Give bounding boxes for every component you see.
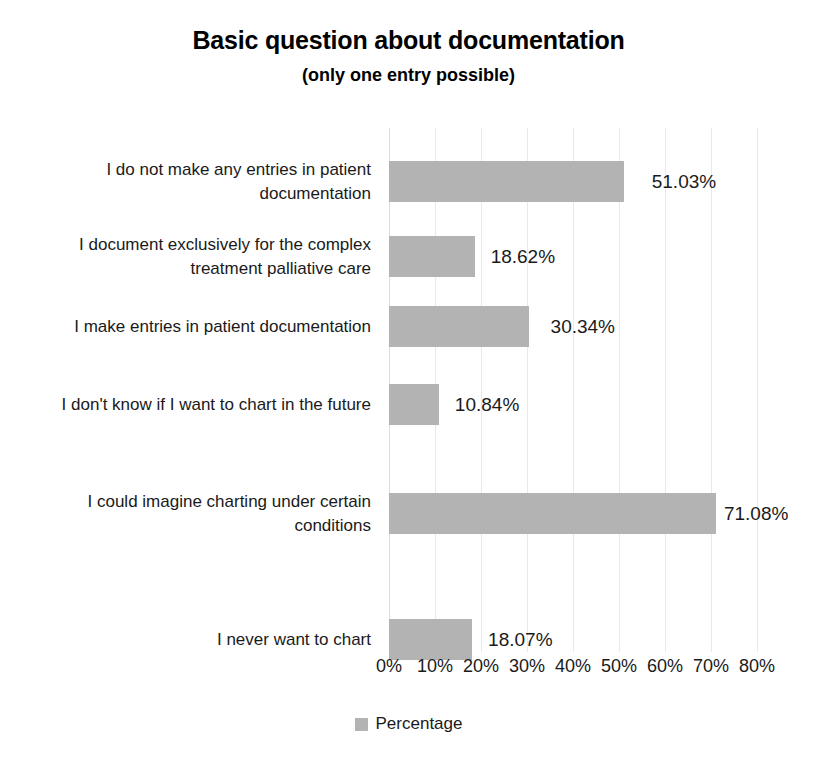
chart-title: Basic question about documentation xyxy=(0,24,817,56)
category-label: I don't know if I want to chart in the f… xyxy=(23,393,371,417)
title-block: Basic question about documentation (only… xyxy=(0,24,817,88)
gridline-80 xyxy=(757,128,758,652)
bar-series-percentage: 51.03%18.62%30.34%10.84%71.08%18.07% xyxy=(389,128,757,652)
legend: Percentage xyxy=(0,714,817,734)
bar-value-label: 18.07% xyxy=(488,629,552,651)
bar xyxy=(389,493,716,534)
x-tick-label: 40% xyxy=(555,656,591,677)
bar xyxy=(389,236,475,277)
legend-label: Percentage xyxy=(376,714,463,734)
bar-chart: Basic question about documentation (only… xyxy=(0,0,817,774)
bar-row: 71.08% xyxy=(389,493,757,534)
bar-row: 30.34% xyxy=(389,306,757,347)
bar xyxy=(389,619,472,660)
category-label: I make entries in patient documentation xyxy=(23,315,371,339)
bar-value-label: 30.34% xyxy=(551,316,615,338)
legend-item[interactable]: Percentage xyxy=(355,714,463,734)
x-tick-label: 10% xyxy=(417,656,453,677)
bar xyxy=(389,384,439,425)
x-tick-label: 70% xyxy=(693,656,729,677)
bar-value-label: 18.62% xyxy=(491,246,555,268)
bar-row: 51.03% xyxy=(389,161,757,202)
chart-subtitle: (only one entry possible) xyxy=(0,62,817,88)
bar-row: 18.07% xyxy=(389,619,757,660)
bar xyxy=(389,306,529,347)
x-tick-label: 30% xyxy=(509,656,545,677)
category-label: I do not make any entries in patient doc… xyxy=(23,158,371,206)
category-axis-labels: I do not make any entries in patient doc… xyxy=(24,128,380,652)
x-tick-label: 50% xyxy=(601,656,637,677)
bar-row: 18.62% xyxy=(389,236,757,277)
category-label: I could imagine charting under certain c… xyxy=(23,490,371,538)
category-label: I never want to chart xyxy=(23,628,371,652)
bar-value-label: 51.03% xyxy=(652,171,716,193)
bar-value-label: 10.84% xyxy=(455,394,519,416)
x-axis: 0%10%20%30%40%50%60%70%80% xyxy=(389,656,757,684)
x-tick-label: 20% xyxy=(463,656,499,677)
x-tick-label: 80% xyxy=(739,656,775,677)
x-tick-label: 60% xyxy=(647,656,683,677)
clipped-caption-fragment xyxy=(6,764,306,774)
legend-swatch-icon xyxy=(355,718,368,731)
bar-row: 10.84% xyxy=(389,384,757,425)
x-tick-label: 0% xyxy=(376,656,402,677)
bar xyxy=(389,161,624,202)
bar-value-label: 71.08% xyxy=(724,503,788,525)
plot-area: 51.03%18.62%30.34%10.84%71.08%18.07% xyxy=(389,128,757,652)
category-label: I document exclusively for the complex t… xyxy=(23,233,371,281)
